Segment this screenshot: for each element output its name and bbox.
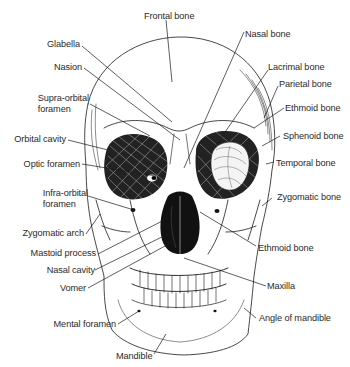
label-ethmoid-bone-lower: Ethmoid bone <box>258 243 314 254</box>
label-supra-orbital-foramen: Supra-orbital foramen <box>38 93 89 114</box>
right-infra-orbital-foramen <box>215 209 220 213</box>
label-lacrimal-bone: Lacrimal bone <box>268 62 324 73</box>
label-temporal-bone: Temporal bone <box>276 158 335 169</box>
label-sphenoid-bone: Sphenoid bone <box>283 131 344 142</box>
left-orbit <box>104 134 168 202</box>
label-vomer: Vomer <box>60 283 86 294</box>
label-mandible: Mandible <box>116 351 152 362</box>
skull-illustration <box>0 0 350 367</box>
label-mental-foramen: Mental foramen <box>54 319 116 330</box>
label-frontal-bone: Frontal bone <box>144 11 194 22</box>
nasal-cavity-shape <box>160 192 199 255</box>
label-maxilla: Maxilla <box>267 281 295 292</box>
label-orbital-cavity: Orbital cavity <box>14 134 66 145</box>
label-ethmoid-bone-upper: Ethmoid bone <box>285 103 341 114</box>
right-orbit <box>196 131 259 199</box>
label-infra-orbital-foramen: Infra-orbital foramen <box>43 188 88 209</box>
label-parietal-bone: Parietal bone <box>279 79 332 90</box>
label-zygomatic-bone: Zygomatic bone <box>277 192 341 203</box>
label-mastoid-process: Mastoid process <box>31 248 96 259</box>
label-nasal-bone: Nasal bone <box>245 29 290 40</box>
label-optic-foramen: Optic foramen <box>24 159 80 170</box>
label-nasal-cavity: Nasal cavity <box>47 265 95 276</box>
label-nasion: Nasion <box>54 62 82 73</box>
label-zygomatic-arch: Zygomatic arch <box>23 228 84 239</box>
skull-diagram: Frontal bone Glabella Nasion Supra-orbit… <box>0 0 350 367</box>
label-angle-of-mandible: Angle of mandible <box>259 313 331 324</box>
label-glabella: Glabella <box>47 39 80 50</box>
right-mental-foramen <box>213 310 216 312</box>
brow-ridge <box>104 121 254 132</box>
